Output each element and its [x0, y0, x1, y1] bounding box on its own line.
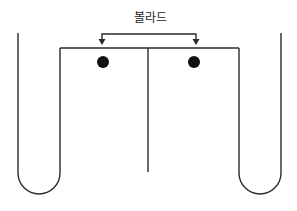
- label-bracket: [102, 34, 196, 42]
- left-tube: [18, 33, 60, 194]
- arrow-down-icon: [99, 39, 106, 45]
- arrow-down-icon: [193, 39, 200, 45]
- right-bollard-dot: [188, 56, 200, 68]
- bollard-label: 볼라드: [120, 10, 180, 26]
- bollard-diagram: 볼라드: [0, 0, 297, 211]
- left-bollard-dot: [97, 56, 109, 68]
- right-tube: [239, 33, 281, 194]
- diagram-drawing: [0, 0, 297, 211]
